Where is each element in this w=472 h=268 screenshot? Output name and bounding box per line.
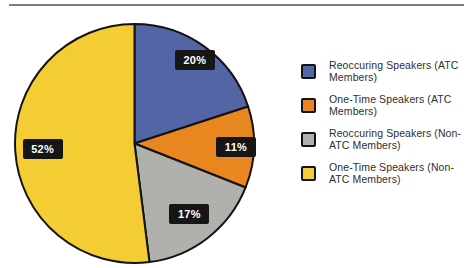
legend-swatch-3 bbox=[301, 132, 316, 147]
pie-slice-3-percent-label: 17% bbox=[169, 204, 209, 224]
legend-item-1: Reoccuring Speakers (ATC Members) bbox=[301, 60, 469, 83]
pie-chart-figure: 20%11%17%52% Reoccuring Speakers (ATC Me… bbox=[0, 0, 472, 268]
legend-label-1: Reoccuring Speakers (ATC Members) bbox=[329, 60, 467, 83]
legend: Reoccuring Speakers (ATC Members)One-Tim… bbox=[301, 60, 469, 196]
pie-chart: 20%11%17%52% bbox=[13, 22, 256, 265]
legend-swatch-2 bbox=[301, 98, 316, 113]
pie-slice-2-percent-label: 11% bbox=[216, 137, 256, 157]
top-rule bbox=[9, 4, 464, 6]
pie-slice-4-percent-label: 52% bbox=[23, 139, 63, 159]
legend-item-2: One-Time Speakers (ATC Members) bbox=[301, 94, 469, 117]
legend-label-3: Reoccuring Speakers (Non-ATC Members) bbox=[329, 128, 467, 151]
legend-item-3: Reoccuring Speakers (Non-ATC Members) bbox=[301, 128, 469, 151]
legend-label-4: One-Time Speakers (Non-ATC Members) bbox=[329, 162, 467, 185]
legend-swatch-1 bbox=[301, 64, 316, 79]
legend-label-2: One-Time Speakers (ATC Members) bbox=[329, 94, 467, 117]
legend-swatch-4 bbox=[301, 166, 316, 181]
pie-slice-1-percent-label: 20% bbox=[175, 50, 215, 70]
legend-item-4: One-Time Speakers (Non-ATC Members) bbox=[301, 162, 469, 185]
